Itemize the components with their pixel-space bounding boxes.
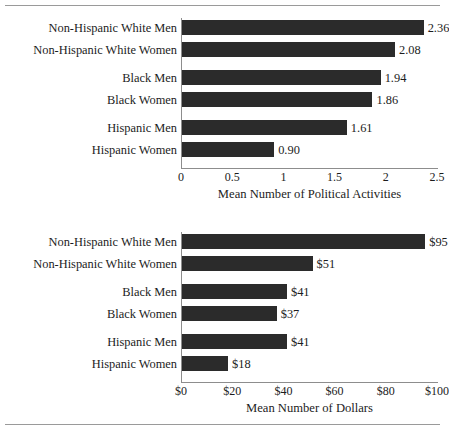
bar-row: Hispanic Men1.61 bbox=[0, 118, 449, 137]
bar-row: Hispanic Women0.90 bbox=[0, 140, 449, 159]
category-label: Non-Hispanic White Men bbox=[49, 21, 177, 33]
x-tick-label: 1.5 bbox=[327, 170, 342, 185]
bar-value-label: 0.90 bbox=[278, 143, 300, 155]
bar-row: Hispanic Women$18 bbox=[0, 354, 449, 373]
bar bbox=[182, 42, 395, 57]
x-tick-label: 1 bbox=[280, 170, 286, 185]
category-label: Non-Hispanic White Women bbox=[33, 257, 177, 269]
bar-value-label: 2.08 bbox=[399, 43, 421, 55]
x-tick-label: 0 bbox=[178, 170, 184, 185]
chart-political-activities: Non-Hispanic White Men2.36Non-Hispanic W… bbox=[0, 14, 449, 204]
category-label: Hispanic Women bbox=[92, 357, 177, 369]
bar-value-label: 1.61 bbox=[351, 121, 373, 133]
bar-value-label: 1.86 bbox=[376, 93, 398, 105]
bar-row: Non-Hispanic White Women$51 bbox=[0, 254, 449, 273]
bar-row: Black Men1.94 bbox=[0, 68, 449, 87]
bar bbox=[182, 70, 381, 85]
x-tick-label: 0.5 bbox=[225, 170, 240, 185]
x-tick-label: 2 bbox=[383, 170, 389, 185]
bar-row: Non-Hispanic White Men2.36 bbox=[0, 18, 449, 37]
bar bbox=[182, 234, 425, 249]
x-tick-label: $100 bbox=[425, 384, 449, 399]
plot-area-1: Non-Hispanic White Men2.36Non-Hispanic W… bbox=[0, 14, 449, 174]
bar bbox=[182, 92, 372, 107]
x-tick-label: $20 bbox=[223, 384, 241, 399]
bar-row: Hispanic Men$41 bbox=[0, 332, 449, 351]
x-axis-title-2: Mean Number of Dollars bbox=[181, 401, 438, 416]
x-axis-ticks-2: $0$20$40$60$80$100 bbox=[181, 384, 438, 400]
bar bbox=[182, 306, 277, 321]
bar-value-label: $18 bbox=[232, 357, 251, 369]
bar-row: Black Men$41 bbox=[0, 282, 449, 301]
chart-dollars: Non-Hispanic White Men$95Non-Hispanic Wh… bbox=[0, 228, 449, 418]
bar-value-label: $41 bbox=[291, 335, 310, 347]
category-label: Hispanic Men bbox=[107, 121, 177, 133]
x-tick-label: $40 bbox=[274, 384, 292, 399]
bar bbox=[182, 284, 287, 299]
bar-rows-2: Non-Hispanic White Men$95Non-Hispanic Wh… bbox=[0, 232, 449, 382]
bar bbox=[182, 334, 287, 349]
bar bbox=[182, 142, 274, 157]
category-label: Non-Hispanic White Men bbox=[49, 235, 177, 247]
x-axis-ticks-1: 00.511.522.5 bbox=[181, 170, 438, 186]
bar-row: Black Women$37 bbox=[0, 304, 449, 323]
bar bbox=[182, 20, 424, 35]
bar bbox=[182, 356, 228, 371]
bar bbox=[182, 256, 313, 271]
bar-row: Non-Hispanic White Women2.08 bbox=[0, 40, 449, 59]
bar-row: Non-Hispanic White Men$95 bbox=[0, 232, 449, 251]
x-axis-line-1 bbox=[181, 168, 438, 169]
category-label: Black Women bbox=[107, 307, 177, 319]
bar-value-label: $51 bbox=[317, 257, 336, 269]
bar-row: Black Women1.86 bbox=[0, 90, 449, 109]
bar bbox=[182, 120, 347, 135]
x-tick-label: $60 bbox=[326, 384, 344, 399]
bar-value-label: 1.94 bbox=[385, 71, 407, 83]
category-label: Black Women bbox=[107, 93, 177, 105]
bar-value-label: $95 bbox=[429, 235, 448, 247]
x-tick-label: 2.5 bbox=[430, 170, 445, 185]
x-tick-label: $80 bbox=[377, 384, 395, 399]
category-label: Non-Hispanic White Women bbox=[33, 43, 177, 55]
bar-value-label: $37 bbox=[281, 307, 300, 319]
bottom-divider-rule bbox=[5, 424, 440, 425]
x-axis-title-1: Mean Number of Political Activities bbox=[181, 187, 438, 202]
bar-rows-1: Non-Hispanic White Men2.36Non-Hispanic W… bbox=[0, 18, 449, 168]
x-tick-label: $0 bbox=[175, 384, 187, 399]
bar-value-label: $41 bbox=[291, 285, 310, 297]
category-label: Hispanic Women bbox=[92, 143, 177, 155]
category-label: Hispanic Men bbox=[107, 335, 177, 347]
top-divider-rule bbox=[5, 5, 440, 6]
category-label: Black Men bbox=[122, 71, 177, 83]
bar-value-label: 2.36 bbox=[428, 21, 449, 33]
plot-area-2: Non-Hispanic White Men$95Non-Hispanic Wh… bbox=[0, 228, 449, 388]
x-axis-line-2 bbox=[181, 382, 438, 383]
category-label: Black Men bbox=[122, 285, 177, 297]
